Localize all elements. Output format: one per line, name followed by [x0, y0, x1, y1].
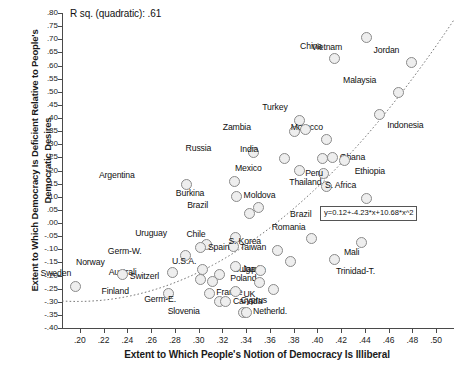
data-point[interactable] [204, 288, 215, 299]
y-tick [58, 13, 62, 14]
plot-area: .80.75.70.65.60.55.50.45.40.35.30.25.20.… [62, 13, 454, 328]
data-point-label: Uruguay [135, 229, 167, 238]
y-tick [58, 52, 62, 53]
x-tick [104, 328, 105, 333]
data-point[interactable] [279, 153, 290, 164]
y-tick-label: .20 [18, 167, 58, 175]
y-tick [58, 302, 62, 303]
y-tick [58, 39, 62, 40]
data-point[interactable] [361, 32, 372, 43]
data-point[interactable] [339, 155, 350, 166]
data-point-label: Switzerl [130, 272, 159, 281]
data-point-label: Russia [186, 144, 212, 153]
y-tick-label: .60 [18, 62, 58, 70]
y-tick [58, 249, 62, 250]
y-tick [58, 105, 62, 106]
data-point[interactable] [306, 233, 317, 244]
data-point-label: Zambia [223, 123, 251, 132]
x-tick [199, 328, 200, 333]
x-tick [412, 328, 413, 333]
data-point-label: Brazil [187, 201, 208, 210]
data-point-label: Spain [208, 243, 229, 252]
data-point-label: Sweden [41, 269, 72, 278]
data-point-label: Romania [272, 223, 306, 232]
data-point-label: Canada [233, 297, 263, 306]
scatter-plot-figure: Extent to Which Democracy Is Deficient R… [0, 0, 475, 372]
data-point[interactable] [272, 245, 283, 256]
y-tick [58, 315, 62, 316]
data-point-label: China [300, 42, 322, 51]
data-point[interactable] [374, 109, 385, 120]
data-point-label: Ethiopia [355, 167, 385, 176]
data-point[interactable] [229, 176, 240, 187]
data-point-label: Turkey [262, 103, 287, 112]
data-point-label: Mali [344, 248, 359, 257]
y-tick-label: -.10 [18, 245, 58, 253]
y-tick-label: .80 [18, 9, 58, 17]
x-tick [270, 328, 271, 333]
y-tick-label: -.05 [18, 232, 58, 240]
x-tick [80, 328, 81, 333]
data-point-label: Germ-W. [108, 247, 142, 256]
y-tick [58, 223, 62, 224]
data-point[interactable] [230, 261, 241, 272]
x-tick [294, 328, 295, 333]
data-point[interactable] [254, 277, 265, 288]
data-point[interactable] [329, 53, 340, 64]
y-tick-label: .70 [18, 35, 58, 43]
x-tick [222, 328, 223, 333]
data-point[interactable] [167, 267, 178, 278]
data-point-label: Slovenia [168, 307, 200, 316]
data-point-label: U.S.A. [172, 257, 196, 266]
x-tick [246, 328, 247, 333]
data-point[interactable] [255, 265, 266, 276]
y-tick-label: -.25 [18, 285, 58, 293]
y-tick [58, 197, 62, 198]
data-point-label: Malaysia [343, 76, 376, 85]
x-tick-label: .50 [416, 335, 456, 345]
data-point[interactable] [70, 281, 81, 292]
data-point-label: S. Korea [228, 237, 261, 246]
x-tick [151, 328, 152, 333]
y-tick-label: -.30 [18, 298, 58, 306]
equation-point-label: Brazil [290, 209, 312, 219]
y-tick-label: .55 [18, 75, 58, 83]
data-point[interactable] [317, 153, 328, 164]
y-tick [58, 289, 62, 290]
y-tick [58, 92, 62, 93]
data-point[interactable] [329, 254, 340, 265]
data-point-label: Burkina [176, 189, 204, 198]
y-tick-label: -.35 [18, 311, 58, 319]
x-axis-line [62, 328, 454, 329]
y-tick-label: .30 [18, 140, 58, 148]
data-point-label: Netherld. [253, 307, 287, 316]
y-tick-label: .45 [18, 101, 58, 109]
y-tick-label: .25 [18, 153, 58, 161]
data-point[interactable] [294, 165, 305, 176]
y-tick-label: .05 [18, 206, 58, 214]
x-tick [127, 328, 128, 333]
data-point-label: Chile [186, 230, 205, 239]
x-tick [389, 328, 390, 333]
data-point[interactable] [285, 256, 296, 267]
data-point[interactable] [241, 307, 252, 318]
data-point-label: Germ-E. [144, 295, 176, 304]
data-point-label: Poland [230, 274, 256, 283]
x-tick [341, 328, 342, 333]
y-tick [58, 328, 62, 329]
data-point-label: Mexico [235, 164, 262, 173]
data-point-label: Jordan [374, 46, 400, 55]
data-point-label: Peru [305, 169, 323, 178]
x-tick [436, 328, 437, 333]
y-tick-label: .65 [18, 48, 58, 56]
y-tick-label: -.40 [18, 324, 58, 332]
y-tick-label: -.15 [18, 258, 58, 266]
y-tick-label: .50 [18, 88, 58, 96]
data-point[interactable] [361, 193, 372, 204]
data-point-label: Moldova [244, 191, 276, 200]
data-point[interactable] [393, 87, 404, 98]
y-tick-label: .35 [18, 127, 58, 135]
r-squared-annotation: R sq. (quadratic): .61 [70, 8, 161, 19]
y-tick [58, 26, 62, 27]
y-tick [58, 184, 62, 185]
